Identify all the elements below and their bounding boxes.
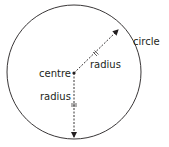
label-circle: circle: [133, 36, 160, 47]
circle-diagram: circle centre radius radius: [0, 0, 169, 147]
label-radius-diagonal: radius: [90, 59, 121, 70]
label-radius-vertical: radius: [40, 91, 71, 102]
label-centre: centre: [39, 68, 71, 79]
centre-point: [72, 71, 75, 74]
